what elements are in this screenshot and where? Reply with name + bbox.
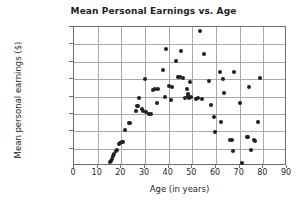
data-point [155,101,159,105]
data-point [134,109,138,113]
data-point [128,121,132,125]
data-point [238,101,242,105]
data-point [258,76,262,80]
data-point [174,59,178,63]
data-point [188,80,192,84]
data-point [218,70,222,74]
data-point [246,135,250,139]
data-point [137,96,141,100]
data-point [185,87,189,91]
gridline-vertical [216,27,217,164]
data-point [164,47,168,51]
data-point [249,148,253,152]
gridline-vertical [240,27,241,164]
x-tick-label: 30 [139,168,149,177]
data-point [232,70,236,74]
data-point [121,140,125,144]
data-point [221,77,225,81]
x-tick-label: 20 [115,168,125,177]
data-point [156,87,160,91]
data-point [169,98,173,102]
x-tick-label: 0 [70,168,75,177]
plot-area [73,26,286,165]
data-point [181,76,185,80]
data-point [200,97,204,101]
data-point [170,85,174,89]
data-point [222,91,226,95]
data-point [256,120,260,124]
data-point [207,79,211,83]
x-tick-label: 50 [186,168,196,177]
gridline-horizontal [74,131,285,132]
data-point [212,115,216,119]
data-point [231,149,235,153]
data-point [115,148,119,152]
gridline-horizontal [74,79,285,80]
data-point [209,103,213,107]
x-tick-label: 90 [281,168,291,177]
x-tick-label: 70 [234,168,244,177]
gridline-vertical [169,27,170,164]
data-point [189,95,193,99]
data-point [219,120,223,124]
gridline-horizontal [74,44,285,45]
x-tick-label: 40 [163,168,173,177]
gridline-vertical [98,27,99,164]
x-tick-label: 60 [210,168,220,177]
data-point [123,128,127,132]
data-point [163,95,167,99]
data-point [161,68,165,72]
data-point [230,138,234,142]
gridline-horizontal [74,62,285,63]
data-point [247,85,251,89]
gridline-horizontal [74,97,285,98]
data-point [198,29,202,33]
gridline-vertical [263,27,264,164]
scatter-chart: Mean Personal Earnings vs. Age 10,00020,… [0,0,307,208]
data-point [253,139,257,143]
data-point [149,112,153,116]
data-point [179,49,183,53]
x-tick-label: 80 [257,168,267,177]
data-point [213,130,217,134]
x-axis-tick-labels: 0102030405060708090 [0,168,307,180]
data-point [240,161,244,165]
gridline-horizontal [74,114,285,115]
y-axis-title: Mean personal earnings ($) [13,30,23,170]
x-tick-label: 10 [92,168,102,177]
data-point [202,52,206,56]
data-point [143,77,147,81]
gridline-vertical [145,27,146,164]
x-axis-title: Age (in years) [73,184,286,194]
gridline-horizontal [74,149,285,150]
